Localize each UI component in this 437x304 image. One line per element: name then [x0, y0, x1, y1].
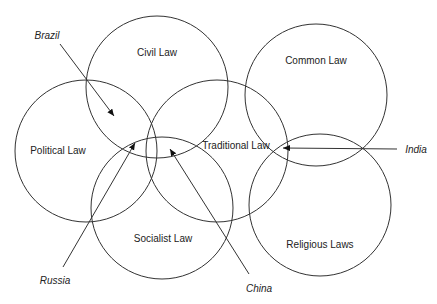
arrow-india: [283, 148, 397, 149]
country-label-brazil: Brazil: [34, 30, 60, 41]
label-civil: Civil Law: [137, 47, 178, 58]
label-political: Political Law: [30, 145, 86, 156]
arrow-brazil: [60, 44, 114, 116]
country-label-china: China: [246, 283, 273, 294]
label-religious: Religious Laws: [286, 239, 353, 250]
labels-layer: Civil LawCommon LawPolitical LawTraditio…: [30, 30, 427, 294]
label-socialist: Socialist Law: [134, 233, 193, 244]
label-common: Common Law: [285, 55, 347, 66]
circle-religious: [249, 134, 391, 276]
label-traditional: Traditional Law: [202, 140, 270, 151]
legal-systems-diagram: Civil LawCommon LawPolitical LawTraditio…: [0, 0, 437, 304]
arrow-russia: [63, 143, 135, 267]
country-label-russia: Russia: [40, 275, 71, 286]
circle-traditional: [146, 80, 288, 222]
country-label-india: India: [405, 144, 427, 155]
arrow-china: [170, 149, 249, 274]
